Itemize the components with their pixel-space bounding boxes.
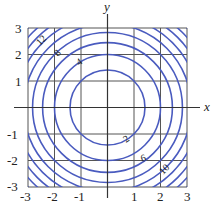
- x-tick: -1: [74, 189, 85, 204]
- contour-label-6: 6: [139, 152, 147, 164]
- contour-plot: x y -3 -2 -1 1 2 3 3 2 1 -1 -2 -3 12 8 4…: [0, 0, 218, 211]
- contour-lines: [0, 0, 218, 211]
- y-tick: -3: [7, 179, 18, 194]
- y-tick: -1: [7, 127, 18, 142]
- tick-labels: -3 -2 -1 1 2 3 3 2 1 -1 -2 -3: [7, 21, 191, 204]
- x-tick: 2: [157, 189, 164, 204]
- y-tick: 3: [15, 21, 22, 36]
- contour-label-2: 2: [121, 133, 131, 145]
- x-tick: 1: [131, 189, 138, 204]
- x-tick: 3: [184, 189, 191, 204]
- y-axis-label: y: [102, 0, 110, 14]
- x-axis-label: x: [203, 99, 210, 114]
- y-tick: 2: [15, 47, 22, 62]
- contour-label-12: 12: [34, 33, 49, 48]
- y-tick: 1: [15, 74, 22, 89]
- y-tick: -2: [7, 153, 18, 168]
- x-tick: -2: [47, 189, 58, 204]
- x-tick: -3: [20, 189, 31, 204]
